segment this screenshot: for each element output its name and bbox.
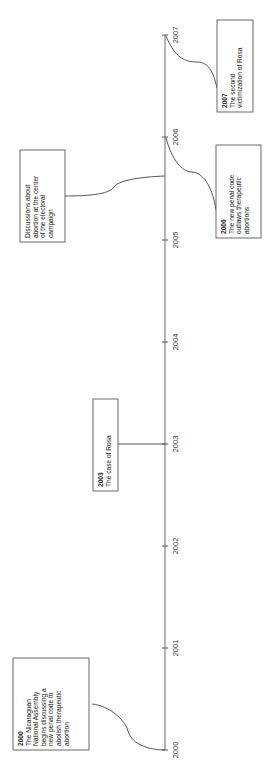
tick-label: 2004 — [171, 334, 180, 351]
event-year: 2007 — [221, 93, 228, 108]
tick-label: 2002 — [171, 538, 180, 555]
event-2005-campaign-box: Discussions aboutabortion at the centero… — [20, 150, 65, 242]
event-2005-campaign-connector — [65, 176, 165, 196]
event-description-line: campaign — [47, 209, 55, 238]
event-year: 2000 — [17, 731, 24, 746]
event-2007-box: 2007The secondvictimization of Rosa — [217, 20, 253, 112]
event-description-line: abortion at the center — [32, 175, 39, 238]
event-description-line: Discussions about — [24, 184, 31, 238]
tick-label: 2000 — [171, 742, 180, 759]
event-2000-connector — [92, 704, 165, 750]
event-2006-connector — [166, 138, 216, 210]
event-2000-box: 2000The NicaraguanNational Assemblybegin… — [13, 658, 89, 750]
event-description-line: victimization of Rosa — [236, 47, 243, 108]
event-boxes: 2007The secondvictimization of Rosa2006T… — [13, 20, 261, 750]
tick-label: 2001 — [171, 640, 180, 657]
event-year: 2003 — [97, 472, 104, 487]
event-year: 2006 — [220, 219, 227, 234]
event-description-line: The case of Rosa — [105, 435, 112, 487]
event-description-line: abortions — [243, 206, 250, 234]
event-2003-box: 2003The case of Rosa — [93, 399, 118, 491]
event-description-line: of the electoral — [39, 194, 46, 238]
tick-label: 2007 — [171, 27, 180, 44]
tick-label: 2003 — [171, 436, 180, 453]
event-2006-box: 2006The new penal codeoutlaws therapeuti… — [216, 145, 261, 238]
timeline-diagram: 20072006200520042003200220012000 2007The… — [0, 0, 266, 784]
event-description-line: abortion — [63, 722, 70, 746]
event-connectors — [65, 36, 217, 750]
tick-label: 2005 — [171, 232, 180, 249]
tick-label: 2006 — [171, 129, 180, 146]
event-description-line: The second — [229, 73, 236, 108]
